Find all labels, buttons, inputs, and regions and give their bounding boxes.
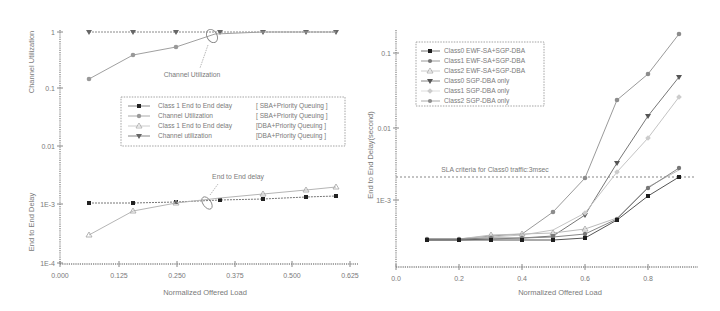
right-chart-panel: End to End Delay(second) Normalized Offe… — [360, 0, 720, 311]
svg-text:[ SBA+Priority Queuing ]: [ SBA+Priority Queuing ] — [256, 102, 328, 110]
right-legend: Class0 EWF-SA+SGP-DBA Class1 EWF-SA+SGP-… — [416, 42, 544, 106]
left-chart-panel: Channel Utilization End to End Delay Nor… — [0, 0, 360, 311]
right-xtick-4: 0.8 — [643, 275, 653, 282]
left-ytick-0.1: 0.1 — [45, 85, 55, 92]
series-class0-ewf — [425, 175, 681, 242]
left-ytick-1e-4: 1E-4 — [40, 260, 55, 267]
right-ytick-0.01: 0.01 — [377, 125, 391, 132]
right-chart: End to End Delay(second) Normalized Offe… — [360, 0, 720, 311]
svg-text:[DBA+Priority Queuing ]: [DBA+Priority Queuing ] — [256, 132, 326, 140]
svg-text:[ SBA+Priority Queuing ]: [ SBA+Priority Queuing ] — [256, 112, 328, 120]
right-xlabel: Normalized Offered Load — [518, 288, 602, 297]
svg-text:Class 1 End to End delay: Class 1 End to End delay — [158, 102, 233, 110]
series-class2-ewf — [427, 170, 679, 239]
util-annotation-arrow — [200, 45, 208, 68]
left-legend: Class 1 End to End delay [ SBA+Priority … — [121, 97, 345, 146]
svg-text:Channel Utilization: Channel Utilization — [158, 112, 213, 119]
left-xlabel: Normalized Offered Load — [163, 288, 247, 297]
svg-text:Class2 EWF-SA+SGP-DBA: Class2 EWF-SA+SGP-DBA — [444, 67, 526, 74]
left-legend-item-3: Class 1 End to End delay [DBA+Priority Q… — [128, 122, 326, 130]
svg-text:[DBA+Priority Queuing ]: [DBA+Priority Queuing ] — [256, 122, 326, 130]
util-annotation: Channel Utilization — [164, 71, 221, 78]
sla-annotation: SLA criteria for Class0 traffic:3msec — [441, 166, 549, 173]
right-xtick-1: 0.2 — [454, 275, 464, 282]
delay-highlight-ellipse — [200, 195, 215, 211]
right-ytick-0.1: 0.1 — [381, 50, 391, 57]
left-xtick-0: 0.000 — [51, 272, 69, 279]
left-xtick-1: 0.125 — [110, 272, 128, 279]
left-xtick-3: 0.375 — [226, 272, 244, 279]
left-xtick-2: 0.250 — [168, 272, 186, 279]
left-legend-item-1: Class 1 End to End delay [ SBA+Priority … — [128, 102, 328, 110]
left-ytick-1: 1 — [51, 29, 55, 36]
left-x-ticks: 0.000 0.125 0.250 0.375 0.500 0.625 — [51, 261, 359, 279]
left-xtick-5: 0.625 — [341, 272, 359, 279]
left-ytick-1e-3: 1E-3 — [40, 201, 55, 208]
right-xtick-0: 0.0 — [391, 275, 401, 282]
series-delay-sba — [87, 194, 338, 205]
right-x-ticks: 0.0 0.2 0.4 0.6 0.8 — [391, 264, 653, 282]
svg-text:Channel utilization: Channel utilization — [158, 132, 212, 139]
svg-text:Class2 SGP-DBA only: Class2 SGP-DBA only — [444, 97, 510, 105]
svg-text:Class0 EWF-SA+SGP-DBA: Class0 EWF-SA+SGP-DBA — [444, 47, 526, 54]
right-xtick-2: 0.4 — [517, 275, 527, 282]
delay-annotation: End to End delay — [212, 173, 264, 181]
right-xtick-3: 0.6 — [580, 275, 590, 282]
left-chart: Channel Utilization End to End Delay Nor… — [0, 0, 360, 311]
left-ylabel-bottom: End to End Delay — [27, 193, 36, 252]
left-ylabel-top: Channel Utilization — [27, 31, 36, 94]
svg-text:Class1 EWF-SA+SGP-DBA: Class1 EWF-SA+SGP-DBA — [444, 57, 526, 64]
svg-text:Class1 SGP-DBA only: Class1 SGP-DBA only — [444, 87, 510, 95]
left-ytick-0.01: 0.01 — [41, 143, 55, 150]
svg-text:Class0 SGP-DBA only: Class0 SGP-DBA only — [444, 77, 510, 85]
right-ylabel: End to End Delay(second) — [366, 111, 375, 199]
svg-text:Class 1 End to End delay: Class 1 End to End delay — [158, 122, 233, 130]
delay-annotation-arrow — [210, 184, 218, 195]
left-xtick-4: 0.500 — [283, 272, 301, 279]
right-ytick-1e-3: 1E-3 — [376, 197, 391, 204]
